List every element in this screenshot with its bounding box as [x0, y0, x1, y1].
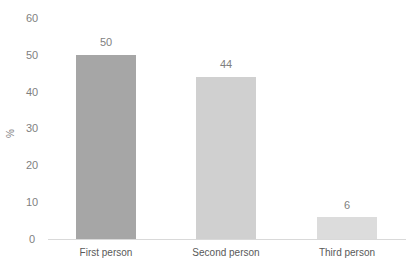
y-tick-40: 40: [22, 86, 42, 98]
y-tick-10: 10: [22, 196, 42, 208]
x-tick-first-person: First person: [56, 247, 156, 258]
bar-chart: % 60 50 40 30 20 10 0 50 First person 44…: [0, 0, 416, 271]
bar-first-person: [76, 55, 136, 239]
bar-value-first-person: 50: [76, 36, 136, 48]
y-tick-50: 50: [22, 49, 42, 61]
bar-third-person: [317, 217, 377, 239]
y-tick-30: 30: [22, 122, 42, 134]
x-tick-second-person: Second person: [176, 247, 276, 258]
bar-second-person: [196, 77, 256, 239]
bar-value-second-person: 44: [196, 58, 256, 70]
x-tick-third-person: Third person: [297, 247, 397, 258]
y-axis-label: %: [5, 129, 16, 138]
y-tick-20: 20: [22, 159, 42, 171]
bar-value-third-person: 6: [317, 199, 377, 211]
y-tick-60: 60: [22, 12, 42, 24]
y-tick-0: 0: [22, 233, 42, 245]
x-axis-line: [48, 239, 406, 240]
